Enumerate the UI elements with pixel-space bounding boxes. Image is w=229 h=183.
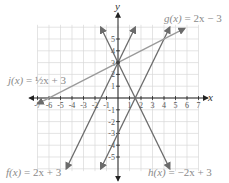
svg-text:3: 3 [151,101,155,110]
svg-text:6: 6 [185,101,189,110]
svg-text:-3: -3 [80,101,87,110]
x-axis-label: x [208,91,213,103]
svg-text:5: 5 [174,101,178,110]
svg-text:-2: -2 [108,118,115,127]
svg-text:-6: -6 [46,101,53,110]
svg-text:7: 7 [197,101,201,110]
y-axis-label: y [115,0,120,12]
svg-text:-4: -4 [69,101,76,110]
svg-text:5: 5 [111,35,115,44]
label-j: j(x) = ½x + 3 [8,74,66,86]
svg-text:-5: -5 [108,153,115,162]
svg-text:-3: -3 [108,129,115,138]
svg-text:1: 1 [111,82,115,91]
svg-text:-5: -5 [57,101,64,110]
label-g: g(x) = 2x − 3 [164,12,222,24]
label-f: f(x) = 2x + 3 [6,166,61,178]
svg-text:-1: -1 [108,106,115,115]
label-h: h(x) = −2x + 3 [148,166,212,178]
graph-canvas: -7-6-5-4-3-2-11234567-5-4-3-2-112345 [0,0,229,183]
svg-text:4: 4 [162,101,166,110]
